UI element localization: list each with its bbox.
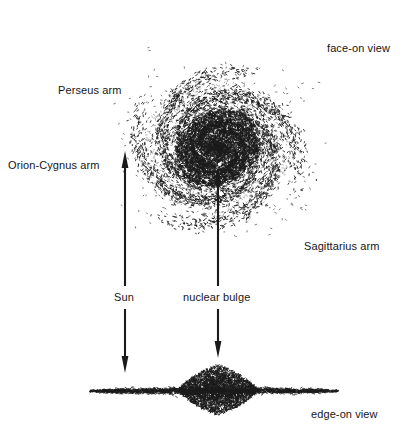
- label-orion-cygnus-arm: Orion-Cygnus arm: [8, 159, 99, 172]
- label-nuclear-bulge: nuclear bulge: [183, 291, 250, 304]
- sun-down-arrow-head: [122, 356, 129, 373]
- label-face-on-view: face-on view: [327, 42, 390, 55]
- label-perseus-arm: Perseus arm: [58, 84, 121, 97]
- galaxy-structure-figure: face-on view Perseus arm Orion-Cygnus ar…: [0, 0, 413, 429]
- label-sagittarius-arm: Sagittarius arm: [304, 240, 379, 253]
- face-on-galaxy-stipple: [114, 47, 326, 236]
- galaxy-artwork: [0, 0, 413, 429]
- nuclear-bulge-down-arrow-head: [215, 341, 222, 358]
- edge-on-galaxy-stipple: [89, 365, 338, 416]
- sun-up-arrow-head: [122, 151, 129, 168]
- label-sun: Sun: [114, 291, 134, 304]
- label-edge-on-view: edge-on view: [311, 408, 378, 421]
